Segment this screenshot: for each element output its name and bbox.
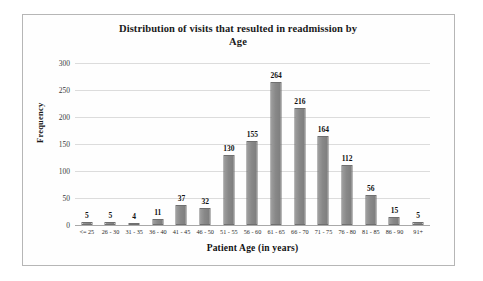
bar-value-label: 15 xyxy=(391,206,399,215)
x-tick-label: 81 - 85 xyxy=(362,228,380,235)
x-tick-label: 51 - 55 xyxy=(220,228,238,235)
bar[interactable] xyxy=(318,136,329,225)
x-tick-label: 91+ xyxy=(413,228,423,235)
bar-slot: 1586 - 90 xyxy=(383,63,407,225)
y-tick-label: 300 xyxy=(59,59,70,68)
bar-value-label: 11 xyxy=(154,208,161,217)
chart-title: Distribution of visits that resulted in … xyxy=(63,23,413,48)
x-tick-label: 31 - 35 xyxy=(125,228,143,235)
chart-title-line-1: Distribution of visits that resulted in … xyxy=(63,23,413,36)
y-tick-label: 200 xyxy=(59,113,70,122)
bar[interactable] xyxy=(413,222,424,225)
bar[interactable] xyxy=(389,217,400,225)
bar-value-label: 164 xyxy=(318,125,329,134)
bar[interactable] xyxy=(105,222,116,225)
bar-slot: 1136 - 40 xyxy=(146,63,170,225)
x-tick-label: 36 - 40 xyxy=(149,228,167,235)
bar[interactable] xyxy=(294,108,305,225)
y-tick-label: 100 xyxy=(59,167,70,176)
bar[interactable] xyxy=(271,82,282,225)
bar-slot: 526 - 30 xyxy=(99,63,123,225)
bar[interactable] xyxy=(81,222,92,225)
bar-slot: 13051 - 55 xyxy=(217,63,241,225)
x-tick-label: 26 - 30 xyxy=(102,228,120,235)
bar-slot: 3246 - 50 xyxy=(193,63,217,225)
bar-slot: 16471 - 75 xyxy=(312,63,336,225)
bar[interactable] xyxy=(176,205,187,225)
y-tick-label: 50 xyxy=(63,194,71,203)
bar[interactable] xyxy=(129,223,140,225)
bar-value-label: 5 xyxy=(85,211,89,220)
x-tick-label: 66 - 70 xyxy=(291,228,309,235)
y-tick-label: 0 xyxy=(66,221,70,230)
bar-value-label: 4 xyxy=(132,212,136,221)
bar[interactable] xyxy=(342,165,353,225)
bar-value-label: 5 xyxy=(416,211,420,220)
bar[interactable] xyxy=(200,208,211,225)
bar[interactable] xyxy=(152,219,163,225)
bar-slot: 3741 - 45 xyxy=(170,63,194,225)
bar-slot: 26461 - 65 xyxy=(264,63,288,225)
x-tick-label: <= 25 xyxy=(79,228,94,235)
y-tick-label: 250 xyxy=(59,86,70,95)
bar[interactable] xyxy=(247,141,258,225)
bar-slot: 11276 - 80 xyxy=(335,63,359,225)
bar-value-label: 112 xyxy=(342,154,353,163)
x-axis-title: Patient Age (in years) xyxy=(75,243,430,253)
bar-slot: 591+ xyxy=(406,63,430,225)
bar-value-label: 5 xyxy=(109,211,113,220)
x-tick-label: 71 - 75 xyxy=(315,228,333,235)
chart-title-line-2: Age xyxy=(63,36,413,49)
gridline-0: 0 xyxy=(75,225,430,226)
bar-slot: 21666 - 70 xyxy=(288,63,312,225)
bar-slot: 15556 - 60 xyxy=(241,63,265,225)
bar-slot: 5<= 25 xyxy=(75,63,99,225)
bar-value-label: 130 xyxy=(223,144,234,153)
bar-slot: 431 - 35 xyxy=(122,63,146,225)
bar[interactable] xyxy=(365,195,376,225)
bar-value-label: 32 xyxy=(201,197,209,206)
x-tick-label: 61 - 65 xyxy=(267,228,285,235)
x-tick-label: 86 - 90 xyxy=(386,228,404,235)
bar-slot: 5681 - 85 xyxy=(359,63,383,225)
bar-value-label: 37 xyxy=(178,194,186,203)
x-tick-label: 46 - 50 xyxy=(196,228,214,235)
x-tick-label: 41 - 45 xyxy=(173,228,191,235)
y-tick-label: 150 xyxy=(59,140,70,149)
x-tick-label: 76 - 80 xyxy=(338,228,356,235)
plot-area: 050100150200250300 5<= 25526 - 30431 - 3… xyxy=(75,63,430,225)
bar-value-label: 155 xyxy=(247,130,258,139)
bar-value-label: 216 xyxy=(294,97,305,106)
chart-container: Distribution of visits that resulted in … xyxy=(22,14,455,266)
bar-value-label: 56 xyxy=(367,184,375,193)
bar[interactable] xyxy=(223,155,234,225)
bar-value-label: 264 xyxy=(271,71,282,80)
y-axis-title: Frequency xyxy=(35,103,45,143)
x-tick-label: 56 - 60 xyxy=(244,228,262,235)
